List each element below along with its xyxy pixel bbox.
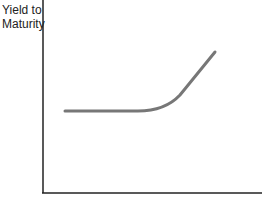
chart-canvas [0, 0, 262, 201]
yield-curve [65, 52, 215, 111]
